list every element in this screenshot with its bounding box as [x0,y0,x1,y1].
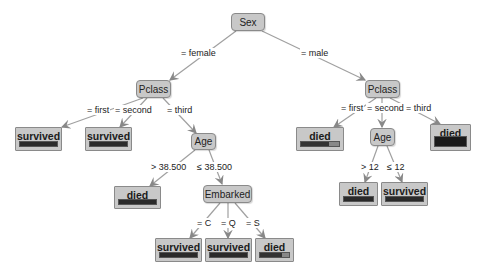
leaf-male-first[interactable]: died [296,127,344,151]
leaf-embarked-c[interactable]: survived [155,238,202,262]
edge-label-age-le: ≤ 38.500 [196,162,233,172]
class-distribution-bar [159,252,198,258]
leaf-embarked-s[interactable]: died [255,238,294,262]
class-distribution-bar [434,136,467,147]
leaf-female-second[interactable]: survived [85,127,132,151]
node-label: Age [195,136,213,147]
edge-label-male-first: = first [340,103,364,113]
edge-label-female-third: = third [166,105,193,115]
node-label: Embarked [205,189,251,200]
node-age-male[interactable]: Age [370,128,395,146]
edge-label-embarked-s: = S [245,218,261,228]
node-pclass-female[interactable]: Pclass [136,80,171,98]
class-distribution-bar [300,141,340,147]
node-pclass-male[interactable]: Pclass [365,80,400,98]
edge-label-female: = female [180,48,217,58]
edge-label-embarked-q: = Q [220,218,237,228]
leaf-female-age-gt[interactable]: died [114,186,161,209]
edge-label-male-second: = second [366,103,405,113]
edge-label-age-le12: ≤ 12 [386,162,405,172]
node-embarked[interactable]: Embarked [203,185,252,203]
edge-label-male: = male [300,48,329,58]
edge-label-female-first: = first [86,105,110,115]
edge-label-age-gt: > 38.500 [150,162,187,172]
edge-label-female-second: = second [114,105,153,115]
leaf-male-third[interactable]: died [430,124,471,151]
node-label: Pclass [139,84,168,95]
node-label: Age [374,132,392,143]
class-distribution-bar [209,252,248,258]
class-distribution-bar [343,196,374,202]
leaf-male-age-gt12[interactable]: died [339,182,378,206]
node-label: Sex [239,17,256,28]
node-label: Pclass [368,84,397,95]
node-age-female[interactable]: Age [191,133,216,150]
edge-label-embarked-c: = C [196,218,212,228]
class-distribution-bar [259,252,290,258]
class-distribution-bar [385,196,424,202]
class-distribution-bar [89,141,128,147]
edge-label-age-gt12: > 12 [360,162,380,172]
edge-label-male-third: = third [405,103,432,113]
leaf-embarked-q[interactable]: survived [205,238,252,262]
tree-edges [0,0,481,277]
class-distribution-bar [118,199,157,205]
leaf-female-first[interactable]: survived [15,127,62,151]
node-sex[interactable]: Sex [231,13,265,31]
leaf-male-age-le12[interactable]: survived [381,182,428,206]
class-distribution-bar [19,141,58,147]
